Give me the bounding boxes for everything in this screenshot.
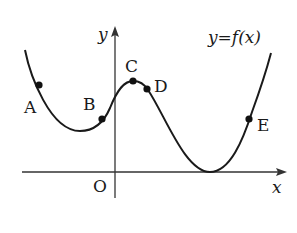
y-axis-label: y <box>97 24 108 44</box>
point-a-label: A <box>23 97 37 117</box>
function-curve <box>25 50 271 172</box>
point-e-label: E <box>257 115 269 135</box>
point-a <box>35 81 42 88</box>
graph-canvas: A B C D E O x y y=f(x) <box>0 0 297 233</box>
point-b <box>98 115 105 122</box>
point-d <box>143 85 150 92</box>
point-c <box>129 77 136 84</box>
point-d-label: D <box>154 76 168 96</box>
point-e <box>245 115 252 122</box>
function-graph-figure: A B C D E O x y y=f(x) <box>0 0 297 233</box>
x-axis <box>22 168 287 176</box>
point-c-label: C <box>125 56 138 76</box>
x-axis-label: x <box>272 177 282 197</box>
function-label: y=f(x) <box>207 27 261 47</box>
point-b-label: B <box>83 94 96 114</box>
origin-label: O <box>93 176 107 196</box>
